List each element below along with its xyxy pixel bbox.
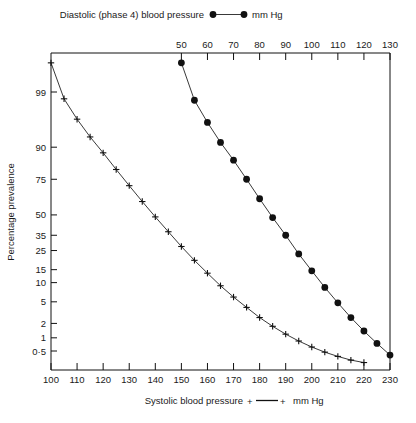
- top-legend-units: mm Hg: [252, 9, 283, 20]
- y-tick-label: 50: [35, 209, 46, 220]
- bottom-legend: Systolic blood pressure + + mm Hg: [145, 395, 324, 407]
- bottom-legend-units: mm Hg: [293, 395, 324, 406]
- bottom-tick-label: 210: [330, 374, 346, 385]
- data-point-circle: [178, 59, 185, 66]
- data-point-circle: [347, 314, 354, 321]
- series-polyline: [181, 63, 390, 355]
- data-point-circle: [308, 267, 315, 274]
- y-tick-label: 1: [41, 332, 46, 343]
- top-tick-label: 130: [382, 39, 398, 50]
- y-tick-label: 10: [35, 277, 46, 288]
- y-axis-ticks: 99907550352515105210·5: [32, 87, 57, 357]
- y-tick-label: 90: [35, 142, 46, 153]
- plot-frame: [51, 53, 390, 370]
- data-point-circle: [269, 214, 276, 221]
- top-legend: Diastolic (phase 4) blood pressure mm Hg: [60, 9, 283, 20]
- prevalence-chart: Diastolic (phase 4) blood pressure mm Hg…: [0, 0, 416, 423]
- bottom-tick-label: 200: [304, 374, 320, 385]
- bottom-tick-label: 190: [278, 374, 294, 385]
- data-point-circle: [361, 328, 368, 335]
- top-tick-label: 120: [356, 39, 372, 50]
- data-point-circle: [191, 97, 198, 104]
- bottom-tick-label: 220: [356, 374, 372, 385]
- bottom-tick-label: 150: [173, 374, 189, 385]
- chart-root: Diastolic (phase 4) blood pressure mm Hg…: [0, 0, 416, 423]
- y-axis-title: Percentage prevalence: [5, 163, 16, 261]
- top-tick-label: 70: [228, 39, 239, 50]
- top-axis-ticks: 5060708090100110120130: [176, 39, 398, 60]
- bottom-axis-ticks: 1001101201301401501601701801902002102202…: [43, 363, 398, 385]
- series-diastolic: [178, 59, 393, 358]
- y-tick-label: 75: [35, 174, 46, 185]
- data-point-circle: [230, 157, 237, 164]
- bottom-tick-label: 130: [121, 374, 137, 385]
- y-tick-label: 5: [41, 296, 46, 307]
- data-point-circle: [217, 139, 224, 146]
- y-tick-label: 35: [35, 230, 46, 241]
- top-tick-label: 100: [304, 39, 320, 50]
- data-point-circle: [387, 352, 394, 359]
- y-tick-label: 0·5: [32, 346, 46, 357]
- top-tick-label: 90: [280, 39, 291, 50]
- bottom-tick-label: 140: [147, 374, 163, 385]
- top-tick-label: 110: [330, 39, 345, 50]
- plus-marker-icon: +: [247, 396, 253, 407]
- y-tick-label: 25: [35, 245, 46, 256]
- data-point-circle: [374, 340, 381, 347]
- data-point-circle: [256, 195, 263, 202]
- bottom-legend-label: Systolic blood pressure: [145, 395, 243, 406]
- series-systolic: [48, 60, 367, 366]
- y-tick-label: 15: [35, 264, 46, 275]
- series-polyline: [51, 63, 364, 363]
- data-point-circle: [334, 299, 341, 306]
- data-point-circle: [321, 284, 328, 291]
- plus-marker-icon-2: +: [280, 396, 286, 407]
- top-tick-label: 50: [176, 39, 187, 50]
- filled-circle-marker-icon: [210, 11, 217, 18]
- bottom-tick-label: 230: [382, 374, 398, 385]
- data-point-circle: [282, 232, 289, 239]
- bottom-tick-label: 180: [252, 374, 268, 385]
- filled-circle-marker-icon-2: [241, 11, 248, 18]
- top-tick-label: 80: [254, 39, 265, 50]
- bottom-tick-label: 170: [226, 374, 242, 385]
- bottom-tick-label: 160: [200, 374, 216, 385]
- top-legend-label: Diastolic (phase 4) blood pressure: [60, 9, 204, 20]
- top-tick-label: 60: [202, 39, 213, 50]
- bottom-tick-label: 100: [43, 374, 59, 385]
- data-point-circle: [204, 119, 211, 126]
- bottom-tick-label: 110: [69, 374, 84, 385]
- y-tick-label: 99: [35, 87, 46, 98]
- data-point-circle: [295, 251, 302, 258]
- data-point-circle: [243, 176, 250, 183]
- y-tick-label: 2: [41, 318, 46, 329]
- bottom-tick-label: 120: [95, 374, 111, 385]
